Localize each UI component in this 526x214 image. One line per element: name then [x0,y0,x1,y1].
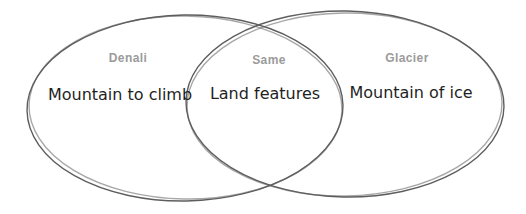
left-region-label: Denali [109,51,147,65]
left-ellipse [25,12,344,203]
intersection-text: Land features [210,84,320,103]
venn-ellipses [0,0,526,214]
left-region-text: Mountain to climb [48,85,192,104]
venn-diagram-canvas: Denali Mountain to climb Same Land featu… [0,0,526,214]
right-ellipse [184,8,505,200]
right-region-text: Mountain of ice [349,83,472,102]
intersection-label: Same [252,53,286,67]
right-region-label: Glacier [385,51,429,65]
